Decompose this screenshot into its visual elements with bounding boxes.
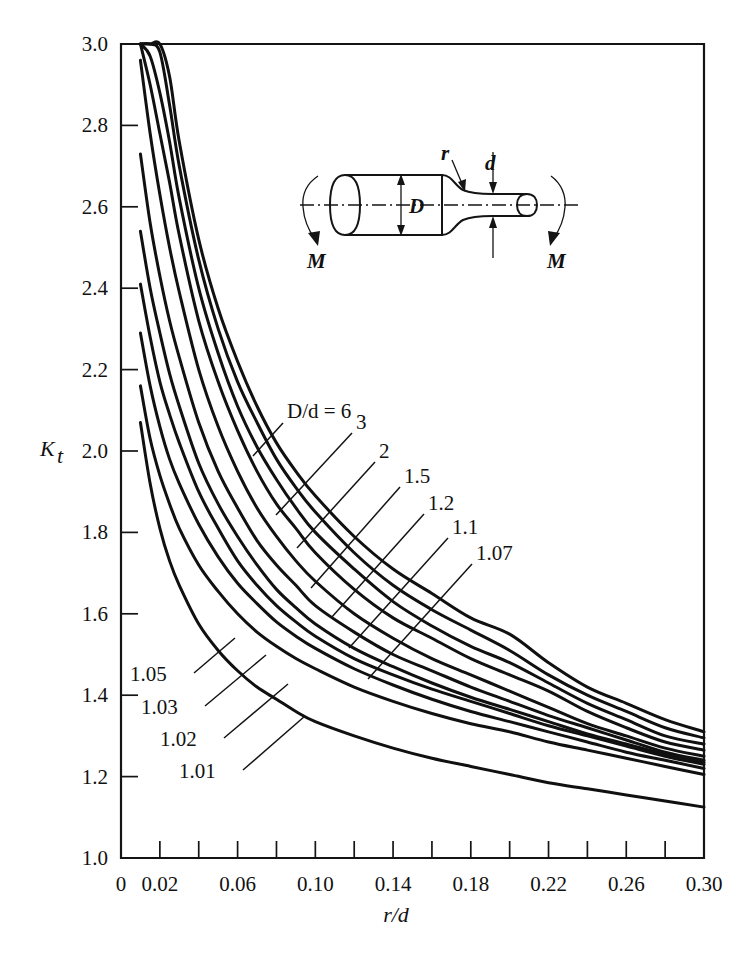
- y-tick-label: 2.6: [82, 195, 108, 219]
- y-axis-title-base: K: [39, 436, 56, 461]
- x-tick-label: 0.14: [375, 872, 412, 896]
- y-tick-label: 2.8: [82, 113, 108, 137]
- x-tick-label: 0.22: [530, 872, 567, 896]
- y-tick-label: 1.8: [82, 520, 108, 544]
- y-tick-label: 2.4: [82, 276, 109, 300]
- inset-label-d: d: [485, 151, 496, 175]
- y-tick-label: 1.6: [82, 602, 108, 626]
- x-tick-label: 0.10: [297, 872, 334, 896]
- curve-label-1_02: 1.02: [160, 727, 197, 751]
- inset-label-r: r: [441, 141, 450, 165]
- x-axis-title: r/d: [383, 902, 410, 927]
- y-tick-label: 2.2: [82, 358, 108, 382]
- y-tick-label: 1.2: [82, 765, 108, 789]
- inset-label-D: D: [408, 194, 424, 218]
- curve-label-1_07: 1.07: [476, 541, 513, 565]
- inset-label-M-left: M: [306, 249, 327, 273]
- chart-background: [0, 0, 753, 961]
- curve-label-1_05: 1.05: [130, 662, 167, 686]
- stress-concentration-chart: 1.01.21.41.61.82.02.22.42.62.83.0 00.020…: [0, 0, 753, 961]
- y-tick-label: 2.0: [82, 439, 108, 463]
- curve-label-1_1: 1.1: [452, 515, 478, 539]
- curve-label-1_03: 1.03: [141, 695, 178, 719]
- inset-label-M-right: M: [546, 249, 567, 273]
- x-tick-label: 0.30: [686, 872, 723, 896]
- y-axis-title-subscript: t: [57, 443, 64, 468]
- y-tick-label: 3.0: [82, 32, 108, 56]
- x-tick-label: 0: [116, 872, 127, 896]
- curve-label-1_01: 1.01: [179, 759, 216, 783]
- x-tick-label: 0.26: [608, 872, 645, 896]
- curve-label-1_2: 1.2: [428, 491, 454, 515]
- y-tick-label: 1.0: [82, 846, 108, 870]
- y-tick-label: 1.4: [82, 683, 109, 707]
- curve-label-3: 3: [356, 410, 367, 434]
- chart-svg: 1.01.21.41.61.82.02.22.42.62.83.0 00.020…: [0, 0, 753, 961]
- curve-label-2: 2: [379, 439, 390, 463]
- x-tick-label: 0.18: [452, 872, 489, 896]
- curve-label-6: D/d = 6: [287, 399, 351, 423]
- x-tick-label: 0.06: [219, 872, 256, 896]
- x-tick-label: 0.02: [141, 872, 178, 896]
- curve-label-1_5: 1.5: [404, 464, 430, 488]
